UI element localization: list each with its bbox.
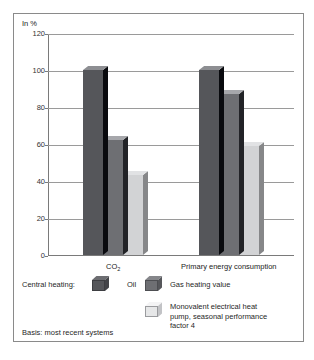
y-tick-label: 120	[32, 30, 45, 38]
y-tick-mark	[45, 256, 48, 257]
legend-label-heatpump: Monovalent electrical heat pump, seasona…	[170, 302, 267, 331]
y-tick-mark	[45, 108, 48, 109]
x-axis-line	[48, 255, 294, 256]
legend-heading: Central heating:	[22, 280, 75, 290]
y-axis-unit-label: In %	[22, 20, 37, 28]
y-tick-mark	[45, 145, 48, 146]
y-tick-label: 80	[37, 104, 45, 112]
y-tick-label: 20	[37, 215, 45, 223]
bar	[83, 70, 103, 255]
bar-front-face	[83, 70, 103, 255]
y-tick-label: 60	[37, 141, 45, 149]
y-tick-label: 0	[41, 252, 45, 260]
figure-frame: In % 020406080100120 CO2Primary energy c…	[13, 13, 304, 342]
bar-side-face	[143, 172, 148, 255]
y-tick-label: 40	[37, 178, 45, 186]
medium-gray-cube-icon	[145, 276, 162, 291]
chart-legend: Central heating: Oil Gas heating value M…	[14, 266, 303, 343]
light-gray-cube-icon	[145, 302, 162, 317]
bar-side-face	[239, 90, 244, 255]
y-tick-label: 100	[32, 67, 45, 75]
plot-area: 020406080100120	[48, 34, 294, 256]
bar-side-face	[103, 66, 108, 255]
basis-note: Basis: most recent systems	[22, 328, 113, 338]
bar-front-face	[199, 70, 219, 255]
legend-label-oil: Oil	[127, 280, 136, 290]
bar	[199, 70, 219, 255]
dark-gray-cube-icon	[92, 276, 109, 291]
legend-label-gas: Gas heating value	[170, 280, 230, 290]
y-tick-mark	[45, 71, 48, 72]
bar-group	[199, 33, 265, 255]
y-tick-mark	[45, 219, 48, 220]
y-tick-mark	[45, 182, 48, 183]
bar-side-face	[219, 66, 224, 255]
bar-side-face	[259, 142, 264, 255]
bar-side-face	[123, 136, 128, 255]
bar-group	[83, 33, 149, 255]
y-tick-mark	[45, 34, 48, 35]
